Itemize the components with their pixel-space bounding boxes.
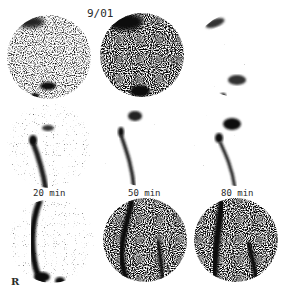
scintigraphy-figure [0,0,285,292]
panel-row1-col2 [100,13,184,97]
panel-row3-col1 [10,199,94,285]
panel-row1-col1 [7,15,91,99]
panel-row3-col3 [194,198,278,284]
panel-row2-col1 [7,104,91,190]
time-label-80min: 80 min [221,188,254,198]
side-marker-right: R [11,276,19,287]
panel-row3-col2 [103,198,187,284]
panel-row1-col3 [194,13,278,99]
time-label-20min: 20 min [33,188,66,198]
time-label-50min: 50 min [128,188,161,198]
panel-row2-col2 [100,102,184,188]
panel-row2-col3 [194,102,278,188]
figure-title: 9/01 [87,7,114,20]
